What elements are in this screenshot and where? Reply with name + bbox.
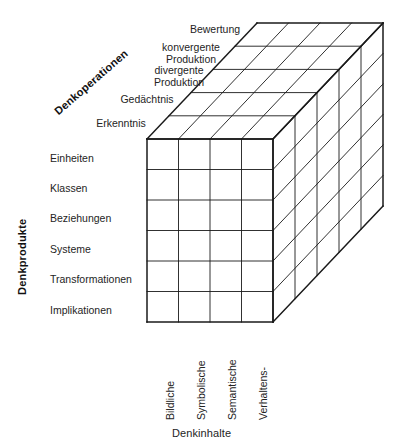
operation-line: Produktion [136, 77, 222, 89]
axis-title-products: Denkprodukte [16, 219, 28, 295]
content-label-semantische: Semantische [226, 359, 238, 420]
product-label-implikationen: Implikationen [50, 304, 112, 316]
operation-label-gedaechtnis: Gedächtnis [104, 94, 190, 106]
operation-line: Erkenntnis [78, 118, 164, 130]
content-label-verhaltens: Verhaltens- [257, 367, 269, 420]
product-label-systeme: Systeme [50, 243, 91, 255]
product-label-transformationen: Transformationen [50, 273, 132, 285]
axis-title-contents: Denkinhalte [172, 428, 231, 440]
operation-label-bewertung: Bewertung [172, 24, 258, 36]
product-label-beziehungen: Beziehungen [50, 212, 111, 224]
diagram-canvas: Denkoperationen Bewertung konvergente Pr… [0, 0, 400, 447]
operation-label-divergente-produktion: divergente Produktion [136, 65, 222, 88]
content-label-symbolische: Symbolische [195, 360, 207, 420]
operation-line: Bewertung [172, 24, 258, 36]
operation-line: Gedächtnis [104, 94, 190, 106]
operation-line: divergente [136, 65, 222, 77]
operation-line: konvergente [148, 42, 234, 54]
operation-label-erkenntnis: Erkenntnis [78, 118, 164, 130]
product-label-klassen: Klassen [50, 182, 87, 194]
content-label-bildliche: Bildliche [164, 381, 176, 420]
operation-label-konvergente-produktion: konvergente Produktion [148, 42, 234, 65]
product-label-einheiten: Einheiten [50, 152, 94, 164]
